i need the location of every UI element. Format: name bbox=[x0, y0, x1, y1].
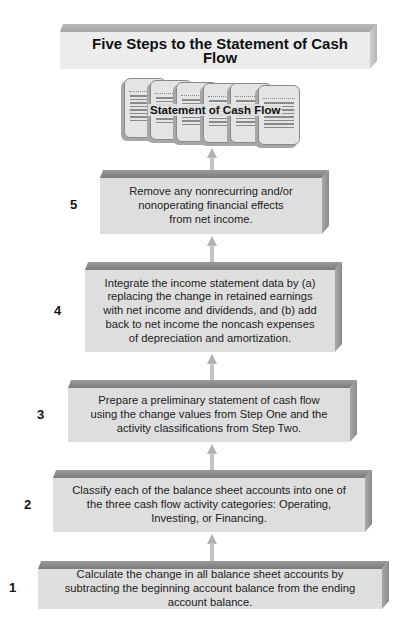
title-box: Five Steps to the Statement of Cash Flow bbox=[60, 24, 377, 69]
step-number-4: 4 bbox=[54, 303, 61, 318]
step-text-3: Prepare a preliminary statement of cash … bbox=[68, 388, 350, 442]
page-title: Five Steps to the Statement of Cash Flow bbox=[60, 32, 370, 69]
step-box-side-face bbox=[350, 380, 357, 442]
document-stack-icon: Statement of Cash Flow bbox=[118, 74, 308, 146]
step-text-5: Remove any nonrecurring and/or nonoperat… bbox=[100, 178, 322, 234]
step-number-1: 1 bbox=[9, 580, 16, 595]
arrow-up-icon bbox=[207, 354, 217, 382]
step-box-top-face bbox=[68, 380, 357, 388]
step-number-5: 5 bbox=[70, 197, 77, 212]
title-box-top-face bbox=[60, 24, 377, 32]
arrow-up-icon bbox=[207, 236, 217, 264]
step-text-4: Integrate the income statement data by (… bbox=[85, 270, 335, 352]
step-box-4: Integrate the income statement data by (… bbox=[85, 262, 342, 352]
step-text-1: Calculate the change in all balance shee… bbox=[38, 569, 382, 609]
arrow-up-icon bbox=[207, 444, 217, 472]
step-number-2: 2 bbox=[24, 497, 31, 512]
step-box-side-face bbox=[365, 470, 372, 532]
step-box-3: Prepare a preliminary statement of cash … bbox=[68, 380, 357, 442]
step-box-top-face bbox=[85, 262, 342, 270]
step-box-side-face bbox=[335, 262, 342, 352]
step-box-top-face bbox=[53, 470, 372, 478]
step-box-side-face bbox=[382, 561, 389, 609]
step-text-2: Classify each of the balance sheet accou… bbox=[53, 478, 365, 532]
step-box-2: Classify each of the balance sheet accou… bbox=[53, 470, 372, 532]
step-box-1: Calculate the change in all balance shee… bbox=[38, 561, 389, 609]
step-box-5: Remove any nonrecurring and/or nonoperat… bbox=[100, 170, 329, 234]
step-box-top-face bbox=[100, 170, 329, 178]
arrow-up-icon bbox=[207, 148, 217, 172]
step-number-3: 3 bbox=[37, 407, 44, 422]
step-box-side-face bbox=[322, 170, 329, 234]
output-label: Statement of Cash Flow bbox=[148, 104, 282, 116]
arrow-up-icon bbox=[207, 534, 217, 563]
